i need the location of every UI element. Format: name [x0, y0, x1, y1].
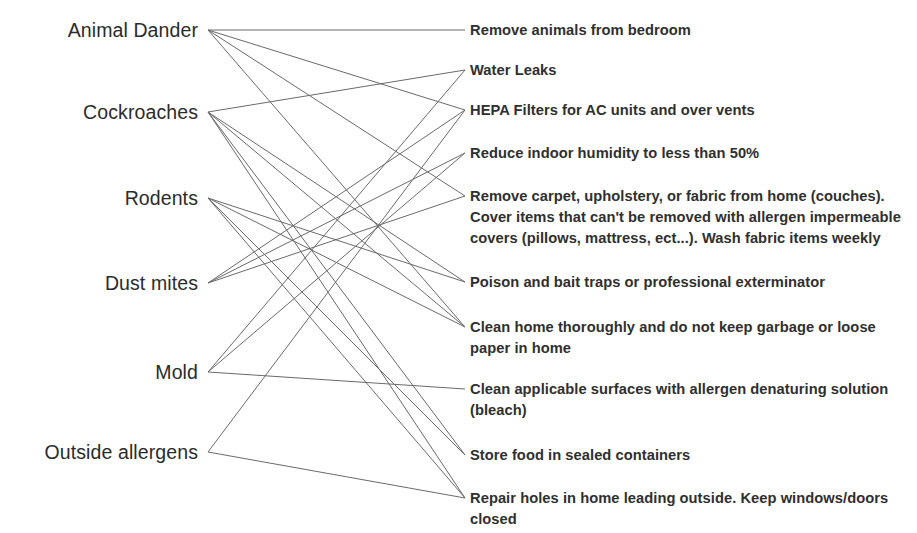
edge-outside-allergens-to-repair-holes [208, 452, 465, 498]
edge-rodents-to-store-food [208, 198, 465, 455]
edge-rodents-to-clean-home [208, 198, 465, 327]
action-label-remove-carpet: Remove carpet, upholstery, or fabric fro… [470, 186, 910, 249]
action-label-water-leaks: Water Leaks [470, 60, 910, 81]
edge-cockroaches-to-repair-holes [208, 112, 465, 498]
allergen-label-outside-allergens: Outside allergens [45, 442, 198, 462]
allergen-label-cockroaches: Cockroaches [83, 102, 198, 122]
action-label-repair-holes: Repair holes in home leading outside. Ke… [470, 488, 910, 530]
edge-rodents-to-repair-holes [208, 198, 465, 498]
edge-cockroaches-to-store-food [208, 112, 465, 455]
action-label-poison-bait-traps: Poison and bait traps or professional ex… [470, 272, 910, 293]
edge-cockroaches-to-clean-home [208, 112, 465, 327]
edge-animal-dander-to-remove-carpet [208, 30, 465, 196]
action-label-remove-animals: Remove animals from bedroom [470, 20, 910, 41]
edge-animal-dander-to-hepa-filters [208, 30, 465, 110]
action-label-store-food: Store food in sealed containers [470, 445, 910, 466]
action-label-clean-surfaces: Clean applicable surfaces with allergen … [470, 379, 910, 421]
edge-rodents-to-poison-bait-traps [208, 198, 465, 282]
edge-cockroaches-to-water-leaks [208, 70, 465, 112]
action-label-reduce-humidity: Reduce indoor humidity to less than 50% [470, 143, 910, 164]
allergen-label-animal-dander: Animal Dander [68, 20, 198, 40]
edge-outside-allergens-to-hepa-filters [208, 110, 465, 452]
action-label-clean-home: Clean home thoroughly and do not keep ga… [470, 317, 910, 359]
allergen-label-mold: Mold [155, 362, 198, 382]
allergen-label-rodents: Rodents [125, 188, 198, 208]
edge-cockroaches-to-poison-bait-traps [208, 112, 465, 282]
allergen-remediation-diagram: Animal DanderCockroachesRodentsDust mite… [0, 0, 917, 533]
edge-dust-mites-to-hepa-filters [208, 110, 465, 283]
edge-mold-to-water-leaks [208, 70, 465, 372]
allergen-label-dust-mites: Dust mites [105, 273, 198, 293]
edge-mold-to-clean-surfaces [208, 372, 465, 389]
edge-animal-dander-to-clean-home [208, 30, 465, 327]
action-label-hepa-filters: HEPA Filters for AC units and over vents [470, 100, 910, 121]
edge-mold-to-reduce-humidity [208, 153, 465, 372]
edge-dust-mites-to-reduce-humidity [208, 153, 465, 283]
edge-dust-mites-to-remove-carpet [208, 196, 465, 283]
